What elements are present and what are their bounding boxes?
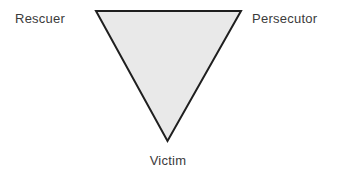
label-rescuer: Rescuer	[15, 11, 65, 26]
drama-triangle-diagram: Rescuer Persecutor Victim	[0, 0, 341, 179]
label-victim: Victim	[0, 153, 336, 168]
triangle-polygon	[96, 11, 241, 141]
label-persecutor: Persecutor	[252, 11, 317, 26]
